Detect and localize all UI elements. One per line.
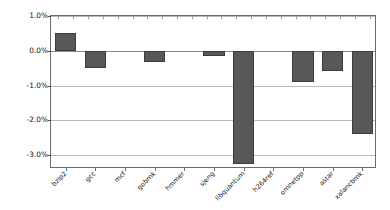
x-tick-mark-top xyxy=(88,16,89,19)
plot-area xyxy=(50,15,376,168)
y-tick-label: 1.0% xyxy=(4,11,48,20)
x-tick-mark-top xyxy=(58,16,59,19)
x-tick-label-anchor: xalancbmk xyxy=(361,172,362,173)
gridline xyxy=(51,120,375,121)
x-tick-label-anchor: sjeng xyxy=(213,172,214,173)
x-tick-label: sjeng xyxy=(198,170,216,188)
x-tick-label-anchor: gcc xyxy=(94,172,95,173)
x-tick-mark xyxy=(66,167,67,171)
x-tick-label-anchor: h264ref xyxy=(272,172,273,173)
x-tick-label: astar xyxy=(317,170,335,188)
x-tick-mark-top xyxy=(266,16,267,19)
x-tick-mark-top xyxy=(162,16,163,19)
x-tick-mark xyxy=(214,167,215,171)
x-tick-mark xyxy=(333,167,334,171)
bar xyxy=(352,51,373,134)
x-tick-mark-top xyxy=(325,16,326,19)
x-tick-mark-top xyxy=(281,16,282,19)
bar-chart-figure: Overhead(%) 1.0%0.0%-1.0%-2.0%-3.0% bzip… xyxy=(0,0,390,210)
x-tick-label: gcc xyxy=(84,170,98,184)
x-tick-mark-top xyxy=(251,16,252,19)
x-tick-mark-top xyxy=(133,16,134,19)
x-tick-mark-top xyxy=(177,16,178,19)
bar xyxy=(322,51,343,71)
x-tick-label: omnetpp xyxy=(278,170,305,197)
x-tick-mark-top xyxy=(192,16,193,19)
x-tick-mark-top xyxy=(355,16,356,19)
x-tick-label-anchor: gobmk xyxy=(154,172,155,173)
x-tick-label-anchor: bzip2 xyxy=(65,172,66,173)
bar xyxy=(55,33,76,50)
x-tick-mark-top xyxy=(340,16,341,19)
x-tick-mark-top xyxy=(73,16,74,19)
x-tick-label: bzip2 xyxy=(50,170,68,188)
y-tick-label: -1.0% xyxy=(4,81,48,90)
x-tick-mark xyxy=(244,167,245,171)
bar xyxy=(233,51,254,164)
y-tick-label: -2.0% xyxy=(4,115,48,124)
x-tick-label: libquantum xyxy=(213,170,246,203)
x-tick-mark-top xyxy=(310,16,311,19)
y-tick-mark xyxy=(48,120,51,121)
x-tick-mark-top xyxy=(118,16,119,19)
x-tick-mark-top xyxy=(147,16,148,19)
x-tick-mark xyxy=(125,167,126,171)
y-tick-mark xyxy=(48,155,51,156)
y-tick-mark xyxy=(48,51,51,52)
x-tick-mark xyxy=(95,167,96,171)
x-tick-mark-top xyxy=(103,16,104,19)
x-tick-mark xyxy=(273,167,274,171)
y-tick-mark xyxy=(48,16,51,17)
x-tick-mark xyxy=(303,167,304,171)
gridline xyxy=(51,86,375,87)
x-tick-label: h264ref xyxy=(252,170,276,194)
x-tick-label-anchor: astar xyxy=(332,172,333,173)
y-tick-label: 0.0% xyxy=(4,46,48,55)
x-tick-label: hmmer xyxy=(164,170,187,193)
x-tick-label: gobmk xyxy=(135,170,157,192)
x-tick-label-anchor: omnetpp xyxy=(302,172,303,173)
bar xyxy=(203,51,224,56)
x-tick-mark xyxy=(184,167,185,171)
x-tick-mark-top xyxy=(236,16,237,19)
x-tick-label-anchor: hmmer xyxy=(183,172,184,173)
y-tick-mark xyxy=(48,86,51,87)
x-tick-mark-top xyxy=(207,16,208,19)
x-tick-mark-top xyxy=(370,16,371,19)
x-tick-label-anchor: mcf xyxy=(124,172,125,173)
bar xyxy=(85,51,106,68)
x-tick-label: mcf xyxy=(113,170,128,185)
y-tick-label: -3.0% xyxy=(4,150,48,159)
x-tick-mark xyxy=(362,167,363,171)
bar xyxy=(144,51,165,62)
gridline xyxy=(51,16,375,17)
x-tick-mark-top xyxy=(221,16,222,19)
x-tick-mark-top xyxy=(296,16,297,19)
x-tick-label: xalancbmk xyxy=(333,170,364,201)
x-tick-mark xyxy=(155,167,156,171)
gridline xyxy=(51,155,375,156)
x-tick-label-anchor: libquantum xyxy=(243,172,244,173)
bar xyxy=(292,51,313,82)
